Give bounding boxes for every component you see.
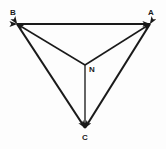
node-label-n: N xyxy=(89,66,95,74)
node-label-a: A xyxy=(148,9,154,17)
edge-a-c xyxy=(85,24,150,128)
diagram-svg xyxy=(0,0,166,149)
graph-diagram: B A N C xyxy=(0,0,166,149)
edge-n-a xyxy=(85,24,150,65)
edge-b-c xyxy=(17,24,85,128)
node-label-c: C xyxy=(82,134,88,142)
edge-n-b xyxy=(17,24,85,65)
node-label-b: B xyxy=(10,9,16,17)
